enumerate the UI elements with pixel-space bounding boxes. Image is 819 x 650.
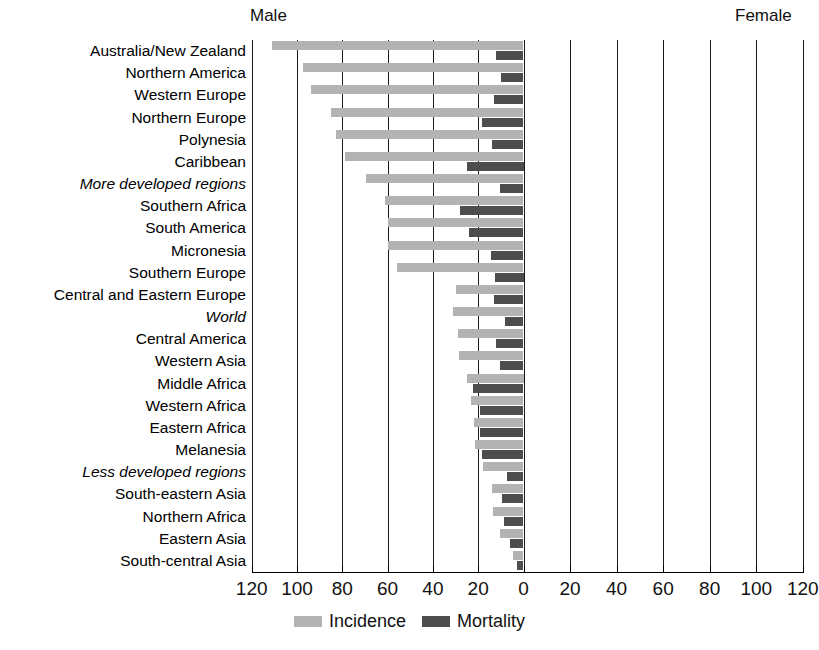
chart-row: South-central Asia: [0, 550, 819, 572]
category-label: Australia/New Zealand: [90, 43, 246, 59]
bar-mortality-male: [510, 539, 524, 548]
bar-mortality-male: [507, 472, 524, 481]
chart-row: Micronesia: [0, 240, 819, 262]
category-label: Western Europe: [134, 87, 246, 103]
category-label: World: [206, 309, 246, 325]
chart-legend: IncidenceMortality: [0, 611, 819, 632]
chart-row: Northern Europe: [0, 107, 819, 129]
bar-mortality-male: [496, 51, 523, 60]
tick-label-female-40: 40: [606, 578, 627, 600]
bar-mortality-male: [480, 428, 523, 437]
tick-label-female-80: 80: [699, 578, 720, 600]
category-label: Southern Africa: [140, 198, 246, 214]
category-label: Caribbean: [174, 154, 246, 170]
bar-mortality-male: [492, 140, 524, 149]
chart-row: Southern Africa: [0, 195, 819, 217]
tick-label-male-80: 80: [332, 578, 353, 600]
bar-incidence-male: [513, 551, 523, 560]
bar-incidence-male: [345, 152, 524, 161]
category-label: More developed regions: [80, 176, 246, 192]
bar-incidence-male: [456, 285, 524, 294]
chart-row: Eastern Asia: [0, 528, 819, 550]
bar-incidence-male: [493, 507, 524, 516]
chart-row: World: [0, 306, 819, 328]
bar-mortality-male: [496, 339, 523, 348]
bar-mortality-male: [467, 162, 524, 171]
chart-row: Western Asia: [0, 350, 819, 372]
legend-label-mortality: Mortality: [457, 611, 525, 632]
bar-mortality-male: [517, 561, 524, 570]
category-label: Melanesia: [175, 442, 246, 458]
legend-swatch-mortality: [422, 616, 450, 627]
category-label: Central America: [136, 331, 246, 347]
bar-mortality-male: [495, 273, 523, 282]
bar-mortality-male: [482, 450, 524, 459]
chart-row: Western Africa: [0, 395, 819, 417]
chart-row: Central and Eastern Europe: [0, 284, 819, 306]
legend-swatch-incidence: [294, 616, 322, 627]
category-label: Middle Africa: [157, 376, 246, 392]
bar-mortality-male: [504, 517, 523, 526]
tick-label-female-100: 100: [740, 578, 772, 600]
chart-row: Northern Africa: [0, 506, 819, 528]
tick-label-male-100: 100: [281, 578, 313, 600]
bar-incidence-male: [272, 41, 523, 50]
chart-row: Central America: [0, 328, 819, 350]
bar-incidence-male: [483, 462, 524, 471]
bar-mortality-male: [482, 118, 524, 127]
tick-label-male-60: 60: [377, 578, 398, 600]
category-label: Western Africa: [145, 398, 246, 414]
chart-row: Less developed regions: [0, 461, 819, 483]
category-label: South America: [145, 220, 246, 236]
bar-incidence-male: [331, 108, 524, 117]
chart-row: South America: [0, 217, 819, 239]
bar-mortality-male: [473, 384, 524, 393]
chart-row: Middle Africa: [0, 373, 819, 395]
bar-mortality-male: [469, 228, 523, 237]
tick-label-male-20: 20: [468, 578, 489, 600]
bar-incidence-male: [303, 63, 523, 72]
category-label: Northern America: [125, 65, 246, 81]
chart-row: Australia/New Zealand: [0, 40, 819, 62]
bar-mortality-male: [491, 251, 524, 260]
figure-root: Male Female 1201008060402002040608010012…: [0, 0, 819, 650]
legend-item-incidence: Incidence: [294, 611, 406, 632]
bar-mortality-male: [505, 317, 523, 326]
bar-incidence-male: [388, 218, 524, 227]
bar-incidence-male: [492, 484, 524, 493]
bar-incidence-male: [397, 263, 524, 272]
chart-row: South-eastern Asia: [0, 483, 819, 505]
bar-incidence-male: [385, 196, 523, 205]
male-panel-header: Male: [250, 6, 287, 26]
tick-label-female-120: 120: [787, 578, 819, 600]
legend-item-mortality: Mortality: [422, 611, 525, 632]
category-label: Eastern Asia: [159, 531, 246, 547]
category-label: Northern Europe: [131, 110, 246, 126]
bar-incidence-male: [458, 329, 524, 338]
category-label: Micronesia: [171, 243, 246, 259]
bar-incidence-male: [475, 440, 524, 449]
bar-mortality-male: [500, 361, 524, 370]
chart-row: Melanesia: [0, 439, 819, 461]
bar-mortality-male: [501, 73, 524, 82]
chart-row: Caribbean: [0, 151, 819, 173]
chart-row: Western Europe: [0, 84, 819, 106]
bar-mortality-male: [480, 406, 523, 415]
category-label: Central and Eastern Europe: [54, 287, 246, 303]
bar-incidence-male: [336, 130, 524, 139]
female-panel-header: Female: [735, 6, 792, 26]
bar-mortality-male: [494, 95, 523, 104]
bar-mortality-male: [500, 184, 524, 193]
tick-label-male-120: 120: [236, 578, 268, 600]
category-label: Southern Europe: [129, 265, 246, 281]
category-label: South-eastern Asia: [115, 486, 246, 502]
tick-label-female-60: 60: [653, 578, 674, 600]
bar-incidence-male: [471, 396, 523, 405]
bar-incidence-male: [453, 307, 523, 316]
figure-caption-clipped: [0, 641, 819, 650]
bar-mortality-male: [460, 206, 523, 215]
category-label: Eastern Africa: [150, 420, 247, 436]
bar-incidence-male: [366, 174, 523, 183]
chart-row: Southern Europe: [0, 262, 819, 284]
legend-label-incidence: Incidence: [329, 611, 406, 632]
